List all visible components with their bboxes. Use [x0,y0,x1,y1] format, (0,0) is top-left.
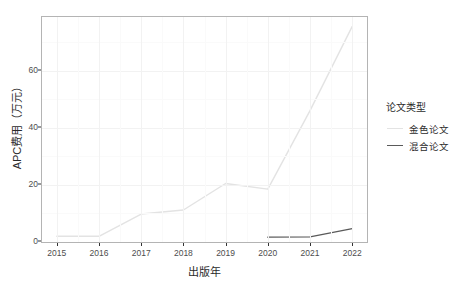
gridline-minor-x [162,17,163,242]
legend-key-line-icon [386,139,404,153]
legend-items: 金色论文混合论文 [386,120,472,154]
legend-item-label: 混合论文 [409,139,449,153]
y-tick-mark [38,241,41,242]
gridline-minor-x [331,17,332,242]
y-tick-mark [38,69,41,70]
legend-item-label: 金色论文 [409,122,449,136]
legend-item[interactable]: 混合论文 [386,137,472,154]
gridline-major-x [141,17,142,242]
gridline-minor-x [205,17,206,242]
x-tick-mark [226,243,227,246]
gridline-major-x [99,17,100,242]
x-tick-mark [268,243,269,246]
gridline-major-x [310,17,311,242]
y-tick-mark [38,126,41,127]
x-tick-label: 2017 [132,248,151,258]
x-axis-tick-labels: 20152016201720182019202020212022 [41,248,368,262]
x-tick-mark [310,243,311,246]
y-tick-label: 60 [16,65,38,75]
legend-key-line-icon [386,122,404,136]
x-tick-mark [57,243,58,246]
legend-item[interactable]: 金色论文 [386,120,472,137]
y-axis-tick-labels: 0204060 [14,0,38,288]
gridline-major-x [352,17,353,242]
gridline-minor-x [247,17,248,242]
x-tick-label: 2019 [216,248,235,258]
y-tick-label: 0 [16,236,38,246]
gridline-minor-x [78,17,79,242]
x-tick-label: 2015 [47,248,66,258]
gridline-major-x [57,17,58,242]
plot-panel [41,16,368,243]
gridline-major-x [268,17,269,242]
x-axis-tick-marks [41,243,368,247]
chart-container: APC费用（万元） 0204060 2015201620172018201920… [0,0,472,288]
x-tick-label: 2018 [174,248,193,258]
legend-title: 论文类型 [386,99,472,114]
x-tick-label: 2022 [343,248,362,258]
x-tick-mark [352,243,353,246]
gridline-minor-x [289,17,290,242]
legend: 论文类型 金色论文混合论文 [386,99,472,154]
gridline-major-x [226,17,227,242]
gridline-major-x [183,17,184,242]
x-axis-title: 出版年 [41,263,368,279]
gridline-minor-x [120,17,121,242]
x-tick-label: 2021 [301,248,320,258]
x-tick-label: 2020 [258,248,277,258]
x-tick-mark [183,243,184,246]
y-tick-mark [38,183,41,184]
y-tick-label: 40 [16,122,38,132]
x-tick-mark [99,243,100,246]
x-tick-label: 2016 [90,248,109,258]
x-tick-mark [141,243,142,246]
y-tick-label: 20 [16,179,38,189]
